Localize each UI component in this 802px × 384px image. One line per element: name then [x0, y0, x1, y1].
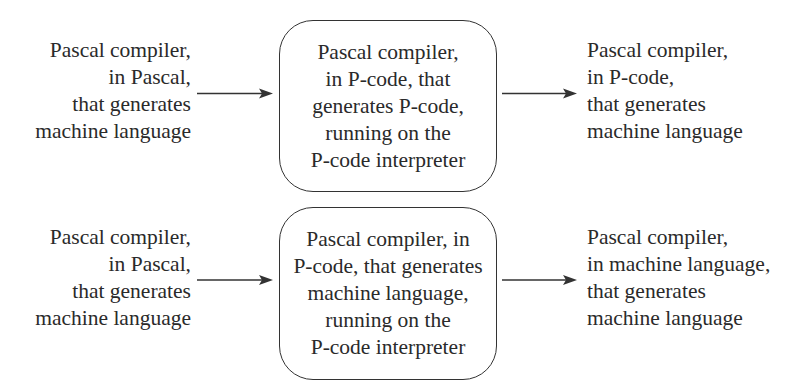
row1-process-box: Pascal compiler, in P-code, that generat… — [279, 20, 497, 192]
row2-process-line: running on the — [325, 307, 450, 334]
row2-input-line: in Pascal, — [35, 251, 191, 278]
row2-process-line: P-code, that generates — [293, 253, 482, 280]
row1-process-line: in P-code, that — [326, 66, 451, 93]
row1-input-line: in Pascal, — [35, 64, 191, 91]
row2-output-line: in machine language, — [587, 251, 770, 278]
row2-output-line: machine language — [587, 305, 770, 332]
row1-process-line: running on the — [325, 120, 450, 147]
row1-input-label: Pascal compiler, in Pascal, that generat… — [35, 37, 191, 145]
row1-process-line: generates P-code, — [312, 93, 464, 120]
row2-process-line: Pascal compiler, in — [306, 226, 469, 253]
arrow-right-icon — [502, 89, 577, 99]
row2-process-line: P-code interpreter — [311, 334, 466, 361]
row1-output-line: machine language — [587, 118, 743, 145]
arrow-right-icon — [197, 275, 273, 285]
arrow-right-icon — [197, 89, 273, 99]
row1-input-line: Pascal compiler, — [35, 37, 191, 64]
row2-input-line: Pascal compiler, — [35, 224, 191, 251]
row2-process-box: Pascal compiler, in P-code, that generat… — [279, 207, 497, 380]
row1-output-line: Pascal compiler, — [587, 37, 743, 64]
row2-output-line: that generates — [587, 278, 770, 305]
row1-input-line: machine language — [35, 118, 191, 145]
row2-process-line: machine language, — [307, 280, 468, 307]
row2-output-label: Pascal compiler, in machine language, th… — [587, 224, 770, 332]
row2-input-line: machine language — [35, 305, 191, 332]
row1-output-line: in P-code, — [587, 64, 743, 91]
row1-output-label: Pascal compiler, in P-code, that generat… — [587, 37, 743, 145]
row1-process-line: Pascal compiler, — [317, 39, 458, 66]
row2-output-line: Pascal compiler, — [587, 224, 770, 251]
row2-input-label: Pascal compiler, in Pascal, that generat… — [35, 224, 191, 332]
row1-process-line: P-code interpreter — [311, 147, 466, 174]
row2-input-line: that generates — [35, 278, 191, 305]
arrow-right-icon — [502, 275, 577, 285]
row1-input-line: that generates — [35, 91, 191, 118]
row1-output-line: that generates — [587, 91, 743, 118]
